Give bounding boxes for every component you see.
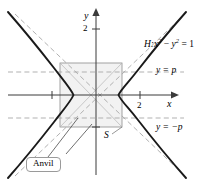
hyperbola-equation-rhs: = 1 — [179, 39, 194, 49]
hyperbola-equation-prefix: H: — [144, 39, 154, 49]
anvil-callout-box: Anvil — [26, 157, 61, 172]
anvil-callout-label: Anvil — [33, 158, 54, 168]
y-tick-label-2: 2 — [83, 24, 88, 33]
label-y-equals-p: y = p — [156, 66, 176, 76]
hyperbola-figure: y = p y x 2 2 H:x2 − y2 = 1 y = p y = −p… — [0, 0, 218, 184]
hyperbola-equation-minus: − — [161, 39, 171, 49]
label-y-equals-negative-p: y = −p — [156, 123, 183, 133]
s-label-leader-line — [112, 127, 122, 134]
label-set-s: S — [104, 131, 109, 141]
hyperbola-equation-label: H:x2 − y2 = 1 — [144, 40, 194, 50]
x-axis-title: x — [167, 99, 171, 109]
x-tick-label-2: 2 — [137, 101, 142, 110]
y-axis-arrowhead — [92, 8, 99, 16]
x-axis-arrowhead — [171, 91, 179, 98]
y-axis-title: y — [84, 11, 88, 21]
